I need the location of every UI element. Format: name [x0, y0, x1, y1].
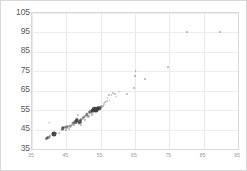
x-axis-tick-label: 95 — [227, 152, 247, 159]
data-point — [114, 93, 116, 95]
data-point — [135, 70, 137, 72]
x-axis-tick-label: 55 — [90, 152, 110, 159]
x-axis-tick-label: 85 — [193, 152, 213, 159]
data-point — [91, 113, 93, 115]
y-axis-tick-label: 85 — [4, 46, 30, 55]
data-point — [84, 119, 86, 121]
gridline-horizontal — [32, 13, 238, 14]
data-point — [48, 122, 50, 124]
gridline-horizontal — [32, 110, 238, 111]
y-axis-tick-label: 95 — [4, 27, 30, 36]
data-point — [106, 100, 108, 102]
data-point — [108, 94, 110, 96]
data-point — [109, 99, 111, 101]
plot-area — [31, 12, 239, 150]
y-axis-tick-label: 55 — [4, 105, 30, 114]
x-axis-tick-label: 65 — [124, 152, 144, 159]
data-point — [134, 75, 136, 77]
gridline-horizontal — [32, 32, 238, 33]
data-point — [144, 78, 146, 80]
data-point — [118, 91, 120, 93]
y-axis-tick-label: 45 — [4, 124, 30, 133]
gridline-horizontal — [32, 91, 238, 92]
data-point — [80, 124, 82, 126]
gridline-vertical — [169, 13, 170, 149]
data-point — [77, 114, 79, 116]
x-axis-tick-label: 75 — [158, 152, 178, 159]
data-point — [87, 115, 89, 117]
gridline-vertical — [238, 13, 239, 149]
data-point — [133, 87, 135, 89]
y-axis-tick-label: 65 — [4, 85, 30, 94]
x-axis-tick-label: 45 — [55, 152, 75, 159]
data-point — [167, 66, 169, 68]
y-axis-tick-label: 75 — [4, 66, 30, 75]
x-axis: 35455565758595 — [31, 152, 239, 164]
data-point — [55, 132, 57, 134]
gridline-vertical — [135, 13, 136, 149]
y-axis-tick-label: 105 — [4, 8, 30, 17]
data-point — [68, 128, 70, 130]
data-point — [219, 31, 221, 33]
data-point — [102, 105, 104, 107]
data-point — [113, 102, 115, 104]
data-point — [73, 124, 75, 126]
data-point — [126, 93, 128, 95]
gridline-horizontal — [32, 52, 238, 53]
gridline-horizontal — [32, 149, 238, 150]
y-axis: 35455565758595105 — [1, 1, 30, 171]
x-axis-tick-label: 35 — [21, 152, 41, 159]
gridline-vertical — [101, 13, 102, 149]
gridline-vertical — [32, 13, 33, 149]
data-point — [116, 96, 118, 98]
data-point — [111, 94, 113, 96]
data-point — [186, 31, 188, 33]
data-point — [59, 133, 61, 135]
chart-container: 35455565758595105 35455565758595 — [0, 0, 247, 171]
gridline-vertical — [204, 13, 205, 149]
data-point — [107, 97, 109, 99]
